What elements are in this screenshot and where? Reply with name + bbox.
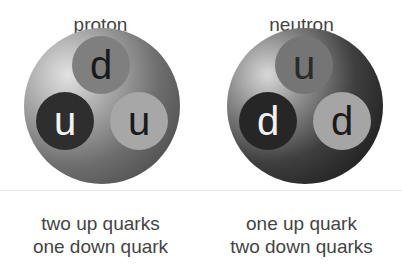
quark-top: d — [72, 36, 130, 94]
proton-diagram: proton d u u two up quarks one down quar… — [0, 0, 201, 278]
quark-right: u — [110, 92, 168, 150]
quark-right: d — [313, 92, 371, 150]
quark-left: u — [36, 92, 94, 150]
proton-sphere: d u u — [24, 28, 180, 184]
caption-line-2: two down quarks — [201, 235, 402, 258]
caption-line-1: two up quarks — [0, 212, 201, 235]
neutron-diagram: neutron u d d one up quark two down quar… — [201, 0, 402, 278]
neutron-caption: one up quark two down quarks — [201, 212, 402, 258]
caption-line-2: one down quark — [0, 235, 201, 258]
neutron-sphere: u d d — [227, 28, 383, 184]
caption-line-1: one up quark — [201, 212, 402, 235]
quark-top: u — [275, 36, 333, 94]
proton-caption: two up quarks one down quark — [0, 212, 201, 258]
quark-left: d — [239, 92, 297, 150]
